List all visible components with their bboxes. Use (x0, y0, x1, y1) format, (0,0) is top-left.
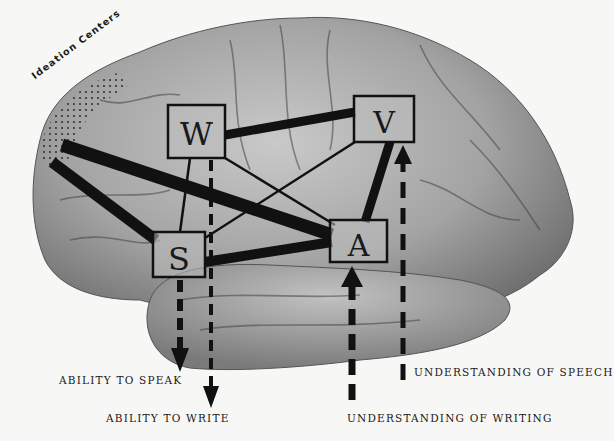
svg-text:A: A (347, 228, 370, 263)
svg-text:V: V (372, 105, 396, 140)
label-understanding-of-speech: UNDERSTANDING OF SPEECH (414, 366, 614, 378)
label-understanding-of-writing: UNDERSTANDING OF WRITING (347, 412, 553, 424)
svg-text:W: W (180, 115, 213, 153)
center-box-s: S (153, 232, 205, 278)
svg-text:S: S (168, 240, 190, 278)
center-box-v: V (354, 96, 414, 142)
label-ability-to-write: ABILITY TO WRITE (106, 412, 230, 424)
temporal-lobe (147, 264, 510, 369)
center-box-a: A (330, 220, 387, 263)
label-ability-to-speak: ABILITY TO SPEAK (59, 374, 182, 386)
center-box-w: W (168, 105, 225, 158)
